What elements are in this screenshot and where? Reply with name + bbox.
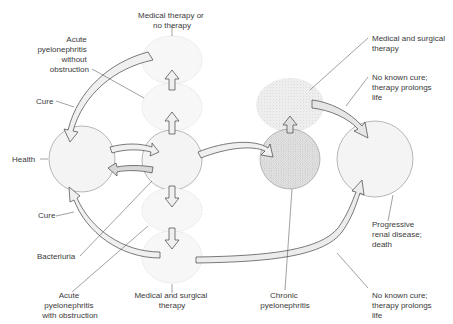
leader-acute-with — [72, 226, 148, 292]
label-medical-or-none: Medical therapy or no therapy — [138, 11, 206, 30]
label-bacteriuria: Bacteriuria — [37, 252, 76, 261]
label-cure-top: Cure — [36, 97, 54, 106]
arrow-bottom-to-progressive — [196, 180, 364, 263]
leader-no-cure-bottom — [337, 253, 368, 288]
leader-progressive — [388, 195, 393, 221]
pyelonephritis-diagram: Medical therapy or no therapy Acute pyel… — [0, 0, 453, 324]
leader-no-cure-top — [346, 77, 368, 106]
label-health: Health — [12, 155, 35, 164]
label-med-surg-bottom: Medical and surgical therapy — [134, 291, 209, 310]
arrow-surgical-to-progressive — [312, 100, 368, 138]
label-acute-without: Acute pyelonephritis without obstruction — [37, 35, 89, 74]
label-cure-bottom: Cure — [38, 211, 56, 220]
leader-chronic — [285, 189, 292, 290]
label-no-cure-top: No known cure; therapy prolongs life — [372, 73, 434, 102]
leader-cure-top — [56, 101, 74, 107]
node-health — [49, 126, 115, 192]
label-chronic: Chronic pyelonephritis — [260, 291, 309, 310]
node-bacteriuria — [142, 130, 202, 190]
arrow-health-to-bacteriuria — [110, 143, 159, 156]
label-no-cure-bottom: No known cure; therapy prolongs life — [372, 291, 434, 320]
leader-cure-bottom — [56, 212, 74, 216]
label-med-surg-top: Medical and surgical therapy — [372, 34, 447, 53]
label-progressive: Progressive renal disease; death — [372, 220, 424, 249]
leader-med-surg-top — [310, 38, 368, 90]
node-progressive-renal-disease — [337, 121, 413, 197]
label-acute-with: Acute pyelonephritis with obstruction — [41, 291, 98, 320]
node-chronic-pyelonephritis — [260, 129, 320, 189]
